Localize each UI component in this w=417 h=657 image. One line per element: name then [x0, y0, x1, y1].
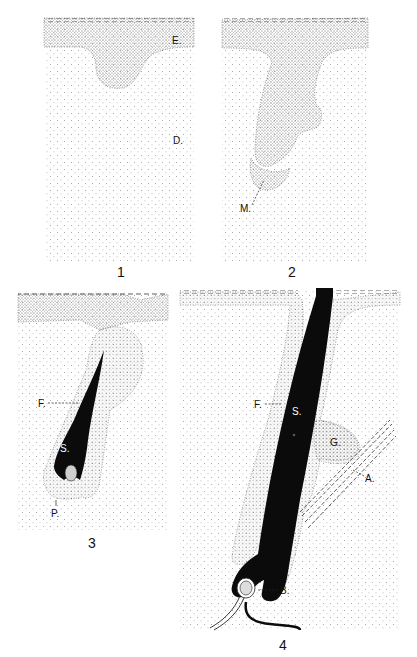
shaft-mark [293, 434, 296, 437]
panel-4: F. S. G. A. B. 4 [180, 288, 400, 653]
stratum-corneum [222, 18, 368, 22]
panel-number-1: 1 [117, 264, 125, 280]
label-matrix: M. [240, 203, 251, 214]
panel-1: E. D. 1 [44, 18, 194, 280]
panel-2: M. 2 [222, 18, 368, 280]
label-shaft: S. [60, 443, 69, 454]
hair-follicle-figure: E. D. 1 M. 2 F. S. P. 3 [0, 0, 417, 657]
panel-3: F. S. P. 3 [18, 292, 168, 551]
label-arrector: A. [365, 473, 374, 484]
label-epidermis: E. [172, 35, 181, 46]
stratum-corneum-right [335, 290, 400, 294]
panel-number-3: 3 [88, 535, 96, 551]
label-dermis: D. [173, 135, 183, 146]
stratum-corneum [44, 18, 194, 22]
panel-number-4: 4 [279, 637, 287, 653]
stratum-corneum-left [180, 290, 298, 294]
label-papilla: P. [51, 508, 59, 519]
label-bulb: B. [280, 585, 289, 596]
label-gland: G. [330, 437, 341, 448]
label-follicle: F. [254, 399, 262, 410]
label-shaft: S. [292, 406, 301, 417]
panel-number-2: 2 [288, 264, 296, 280]
label-follicle: F. [38, 398, 46, 409]
dermal-papilla [65, 465, 77, 481]
stratum-corneum [18, 292, 168, 296]
